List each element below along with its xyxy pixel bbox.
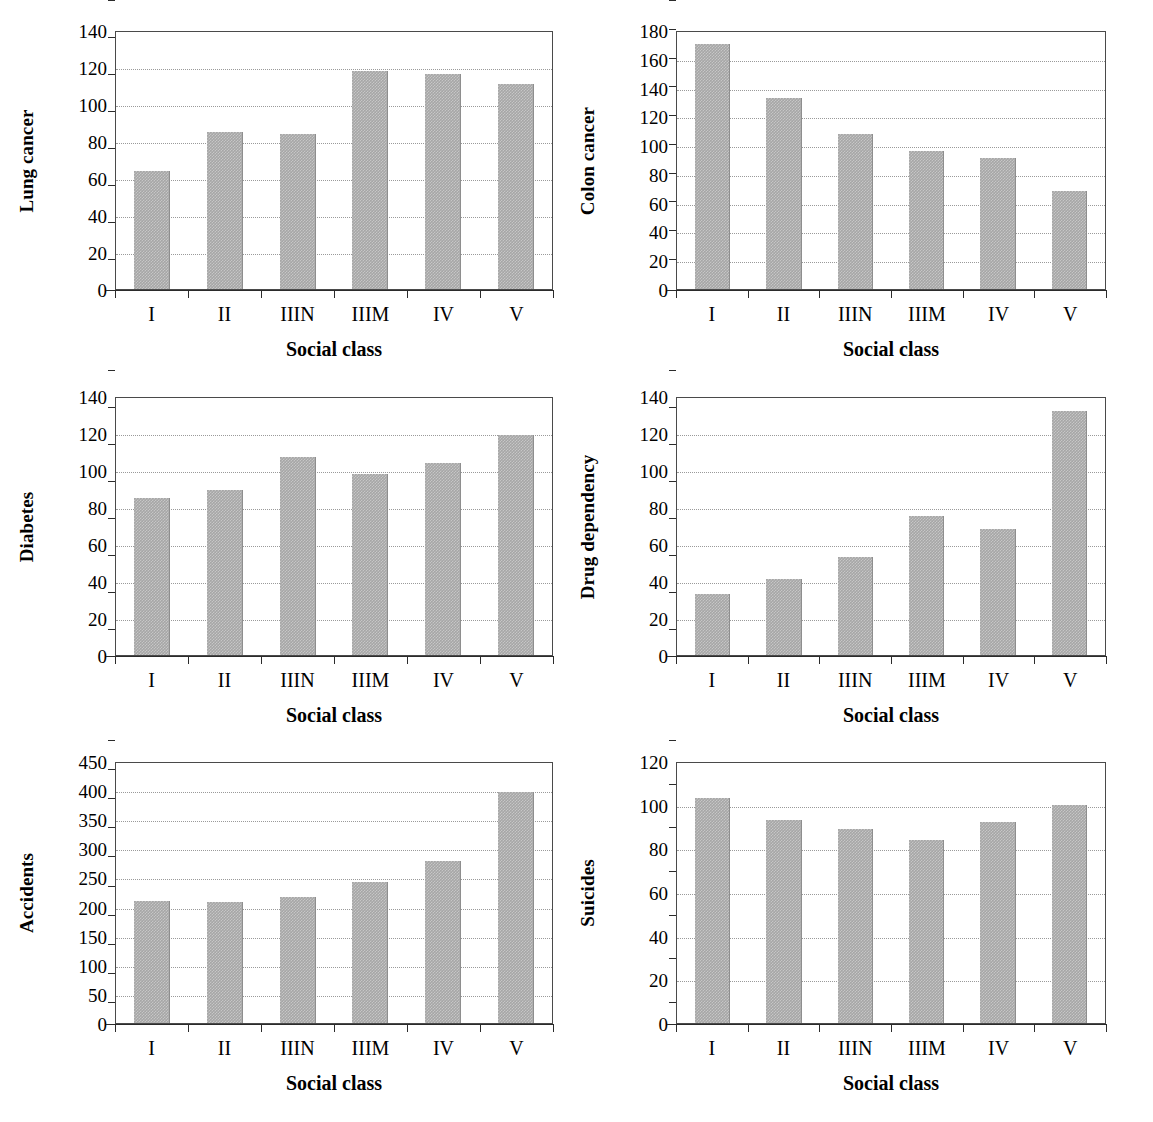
bar-V (498, 792, 534, 1023)
y-tick-label: 40 (88, 207, 107, 226)
y-tick-mark (669, 592, 676, 593)
x-tick-mark (1034, 290, 1035, 298)
x-tick-mark (407, 656, 408, 664)
y-tick-label: 140 (79, 22, 108, 41)
y-tick-label: 80 (649, 840, 668, 859)
y-axis-title-text: Diabetes (16, 491, 38, 561)
y-tick-label: 80 (649, 165, 668, 184)
bar-IV (980, 529, 1015, 655)
x-tick-mark (963, 290, 964, 298)
bar-slot (820, 763, 891, 1023)
y-tick-mark (669, 115, 676, 116)
y-tick-mark (669, 827, 676, 828)
y-tick-mark (669, 915, 676, 916)
bar-slot (116, 763, 189, 1023)
y-tick-label: 40 (88, 573, 107, 592)
y-tick-mark (669, 0, 676, 1)
bar-slot (820, 32, 891, 289)
y-tick-label: 20 (88, 610, 107, 629)
x-tick-label: IIIM (891, 304, 963, 324)
y-tick-mark (108, 518, 115, 519)
bar-IIIM (909, 151, 944, 289)
x-tick-label: I (676, 304, 748, 324)
y-tick-mark (669, 740, 676, 741)
chart-panel-colon-cancer: Colon cancer020406080100120140160180IIII… (600, 0, 1153, 370)
y-axis-title-text: Lung cancer (16, 109, 38, 212)
x-tick-label: I (676, 1038, 748, 1058)
y-tick-label: 150 (79, 927, 108, 946)
bar-II (207, 902, 243, 1023)
y-tick-mark (108, 944, 115, 945)
bar-V (1052, 805, 1087, 1023)
bar-I (695, 594, 730, 655)
x-tick-label: IIIN (819, 304, 891, 324)
y-tick-label: 50 (88, 985, 107, 1004)
x-axis-line (106, 290, 553, 291)
x-tick-label: IIIN (819, 670, 891, 690)
bar-II (207, 132, 243, 289)
bar-series (677, 32, 1105, 289)
y-tick-mark (108, 37, 115, 38)
x-tick-mark (334, 656, 335, 664)
x-tick-mark (963, 656, 964, 664)
bar-IIIM (909, 516, 944, 655)
y-tick-mark (669, 201, 676, 202)
x-tick-mark (261, 290, 262, 298)
y-tick-label: 60 (88, 170, 107, 189)
bar-slot (334, 398, 407, 655)
y-tick-mark (669, 86, 676, 87)
y-tick-mark (108, 555, 115, 556)
x-axis-title-colon-cancer: Social class (676, 338, 1106, 361)
x-axis-tick-labels-drug-dependency: IIIIIINIIIMIVV (676, 670, 1106, 690)
y-tick-label: 40 (649, 223, 668, 242)
x-axis-line (667, 1024, 1106, 1025)
y-tick-label: 160 (640, 50, 669, 69)
x-tick-mark (748, 1024, 749, 1032)
y-tick-mark (669, 259, 676, 260)
y-tick-mark (669, 407, 676, 408)
bar-IV (425, 861, 461, 1023)
bar-slot (261, 763, 334, 1023)
bar-I (695, 798, 730, 1023)
y-tick-label: 80 (649, 499, 668, 518)
y-tick-mark (108, 740, 115, 741)
y-tick-mark (669, 173, 676, 174)
x-tick-label: IV (963, 1038, 1035, 1058)
y-tick-label: 40 (649, 927, 668, 946)
x-tick-mark (480, 290, 481, 298)
bar-slot (189, 398, 262, 655)
bar-slot (479, 32, 552, 289)
bar-IIIM (352, 71, 388, 289)
y-tick-mark (108, 481, 115, 482)
x-tick-label: II (188, 1038, 261, 1058)
bar-V (1052, 411, 1087, 655)
bar-slot (748, 763, 819, 1023)
x-tick-label: II (188, 304, 261, 324)
x-tick-mark (891, 1024, 892, 1032)
bar-IV (980, 822, 1015, 1023)
y-axis-title-drug-dependency: Drug dependency (568, 397, 608, 656)
x-tick-mark (115, 656, 116, 664)
x-tick-label: V (1034, 1038, 1106, 1058)
y-tick-mark (669, 629, 676, 630)
bar-slot (677, 398, 748, 655)
y-axis-title-accidents: Accidents (7, 762, 47, 1024)
y-tick-label: 140 (79, 388, 108, 407)
x-tick-mark (480, 1024, 481, 1032)
x-tick-label: IIIM (891, 670, 963, 690)
bar-slot (261, 398, 334, 655)
x-tick-mark (480, 656, 481, 664)
y-tick-mark (108, 148, 115, 149)
y-tick-label: 140 (640, 388, 669, 407)
y-tick-label: 20 (649, 610, 668, 629)
bar-slot (891, 32, 962, 289)
plot-area-lung-cancer (115, 31, 553, 290)
x-tick-mark (1106, 1024, 1107, 1032)
x-tick-mark (334, 290, 335, 298)
bar-slot (677, 763, 748, 1023)
bar-IIIM (352, 882, 388, 1023)
bar-V (498, 84, 534, 289)
x-tick-mark (553, 656, 554, 664)
bar-slot (1034, 398, 1105, 655)
x-tick-mark (748, 656, 749, 664)
